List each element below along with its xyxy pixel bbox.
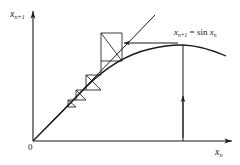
cobweb-diagram-figure: xn+1 xn 0 xn+1 = sin xn [0,0,240,165]
x-axis-label: xn [215,147,223,157]
cobweb-staircase [68,33,122,107]
plot-canvas [0,0,240,165]
equation-annotation: xn+1 = sin xn [174,28,216,37]
y-axis-label: xn+1 [10,9,25,19]
origin-label: 0 [28,143,33,152]
sine-curve [33,45,226,141]
